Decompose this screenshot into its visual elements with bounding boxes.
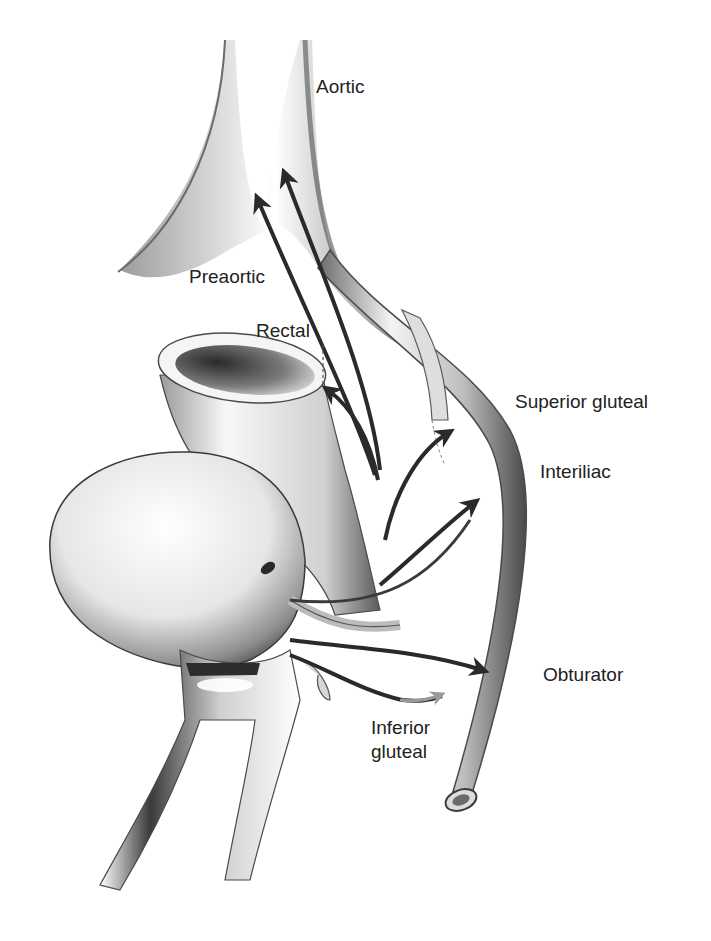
urethra-prostate — [100, 650, 300, 890]
arrow-inferior-gluteal — [290, 655, 442, 701]
label-interiliac: Interiliac — [540, 461, 611, 483]
label-superior-gluteal: Superior gluteal — [515, 391, 648, 413]
label-obturator: Obturator — [543, 664, 623, 686]
arrow-superior-gluteal — [385, 433, 448, 540]
label-aortic: Aortic — [316, 76, 365, 98]
label-inferior-gluteal-line1: Inferior — [371, 717, 430, 739]
label-inferior-gluteal-line2: gluteal — [371, 741, 427, 763]
label-preaortic: Preaortic — [189, 266, 265, 288]
label-rectal: Rectal — [256, 320, 310, 342]
bladder — [50, 452, 305, 668]
arrow-interiliac — [380, 503, 474, 585]
